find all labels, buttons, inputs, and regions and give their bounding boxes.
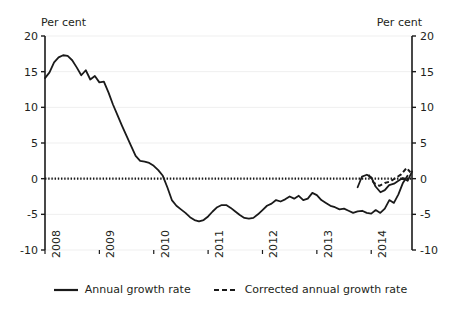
y2-axis-tick-label: 20 — [420, 31, 434, 42]
legend-solid-line-swatch — [53, 285, 79, 295]
plot-area — [0, 0, 460, 312]
y2-axis-tick-label: 0 — [420, 173, 427, 184]
x-axis-tick-label: 2012 — [267, 230, 280, 258]
x-axis-tick-label: 2008 — [50, 230, 63, 258]
legend-item-annual-growth-rate: Annual growth rate — [53, 283, 191, 296]
chart-legend: Annual growth rate Corrected annual grow… — [0, 283, 460, 296]
gridlines — [45, 36, 412, 250]
y2-axis-tick-label: -10 — [420, 245, 438, 256]
legend-label-corrected-annual-growth-rate: Corrected annual growth rate — [245, 283, 407, 296]
chart-container: Per cent Per cent 20151050-5-10 20151050… — [0, 0, 460, 312]
y-axis-tick-label: 15 — [6, 66, 38, 77]
x-axis-tick-label: 2011 — [213, 230, 226, 258]
x-axis-tick-label: 2013 — [322, 230, 335, 258]
y-axis-tick-label: 5 — [6, 138, 38, 149]
series-annual-growth-rate — [45, 55, 412, 221]
series-corrected-annual-growth-rate — [369, 168, 411, 186]
legend-item-corrected-annual-growth-rate: Corrected annual growth rate — [213, 283, 407, 296]
y2-axis-tick-label: 15 — [420, 66, 434, 77]
right-axis-unit-label: Per cent — [377, 16, 422, 29]
y-axis-tick-label: 0 — [6, 173, 38, 184]
x-axis-tick-label: 2014 — [376, 230, 389, 258]
x-axis-tick-label: 2010 — [159, 230, 172, 258]
y-axis-tick-label: -10 — [6, 245, 38, 256]
y-axis-tick-label: -5 — [6, 209, 38, 220]
y2-axis-tick-label: 10 — [420, 102, 434, 113]
y-axis-tick-label: 10 — [6, 102, 38, 113]
legend-label-annual-growth-rate: Annual growth rate — [85, 283, 191, 296]
left-axis-unit-label: Per cent — [41, 16, 86, 29]
y2-axis-tick-label: -5 — [420, 209, 431, 220]
y-axis-tick-label: 20 — [6, 31, 38, 42]
x-axis-tick-label: 2009 — [104, 230, 117, 258]
legend-dashed-line-swatch — [213, 285, 239, 295]
axis-ticks — [41, 36, 416, 254]
y2-axis-tick-label: 5 — [420, 138, 427, 149]
